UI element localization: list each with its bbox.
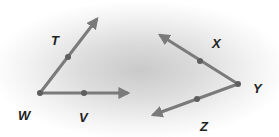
point-y (235, 81, 241, 87)
label-t: T (51, 33, 60, 48)
label-w: W (18, 108, 32, 123)
point-t (65, 54, 71, 60)
point-z (194, 96, 200, 102)
point-x (197, 58, 203, 64)
angles-diagram: T W V X Y Z (0, 0, 279, 137)
label-z: Z (199, 119, 209, 134)
label-y: Y (253, 81, 263, 96)
point-v (81, 90, 87, 96)
label-x: X (211, 36, 222, 51)
diagram-svg: T W V X Y Z (0, 0, 279, 137)
label-v: V (79, 110, 89, 125)
angle-xyz: X Y Z (153, 35, 263, 134)
angle-twv: T W V (18, 19, 128, 125)
point-w (37, 90, 43, 96)
